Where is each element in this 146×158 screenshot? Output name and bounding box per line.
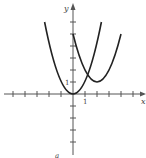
- figure-caption: a: [55, 152, 59, 158]
- y-tick-label-1: 1: [65, 79, 69, 87]
- x-axis-label: x: [141, 97, 146, 106]
- y-axis-label: y: [63, 4, 69, 13]
- x-axis-arrow: [140, 92, 146, 97]
- x-tick-label-1: 1: [83, 98, 87, 106]
- y-axis-arrow: [71, 3, 76, 10]
- graph: y x 1 1 a: [0, 0, 146, 158]
